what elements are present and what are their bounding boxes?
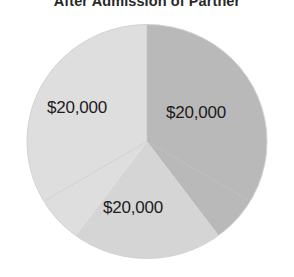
pie-chart-plot-area: $20,000 $20,000 $20,000 [0,0,294,277]
pie-slice-label-bottom: $20,000 [103,198,163,218]
pie-slice-label-right: $20,000 [166,103,226,123]
pie-slice-label-left: $20,000 [47,98,107,118]
pie-chart-figure: After Admission of Partner [0,0,294,277]
pie-chart-svg [0,0,294,277]
